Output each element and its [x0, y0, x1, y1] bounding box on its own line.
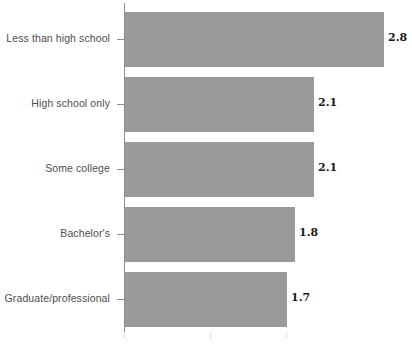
bar-value-label: 2.1 [318, 96, 337, 109]
bar-chart: Less than high school 2.8 High school on… [0, 0, 412, 349]
y-axis-category-label: High school only [31, 97, 110, 109]
y-axis-tick [117, 169, 124, 170]
bar[interactable] [125, 142, 314, 197]
plot-area: Less than high school 2.8 High school on… [0, 0, 412, 349]
bar-value-label: 1.8 [299, 226, 318, 239]
x-axis-tick [124, 333, 125, 338]
bar-row: Less than high school 2.8 [0, 12, 412, 77]
bar-value-label: 2.8 [388, 31, 407, 44]
bar[interactable] [125, 77, 314, 132]
y-axis-category-label: Less than high school [6, 32, 110, 44]
bar-value-label: 2.1 [318, 161, 337, 174]
x-axis-tick [286, 333, 287, 338]
bar-row: Some college 2.1 [0, 142, 412, 207]
y-axis-tick [117, 299, 124, 300]
bar-row: Bachelor's 1.8 [0, 207, 412, 272]
bar-value-label: 1.7 [291, 291, 310, 304]
y-axis-category-label: Some college [45, 162, 110, 174]
bar[interactable] [125, 207, 295, 262]
y-axis-category-label: Bachelor's [60, 227, 110, 239]
x-axis-tick [210, 333, 211, 338]
y-axis-category-label: Graduate/professional [5, 292, 110, 304]
bar[interactable] [125, 272, 287, 327]
y-axis-tick [117, 39, 124, 40]
y-axis-tick [117, 104, 124, 105]
bar-row: Graduate/professional 1.7 [0, 272, 412, 337]
bar-row: High school only 2.1 [0, 77, 412, 142]
bar[interactable] [125, 12, 384, 67]
y-axis-tick [117, 234, 124, 235]
